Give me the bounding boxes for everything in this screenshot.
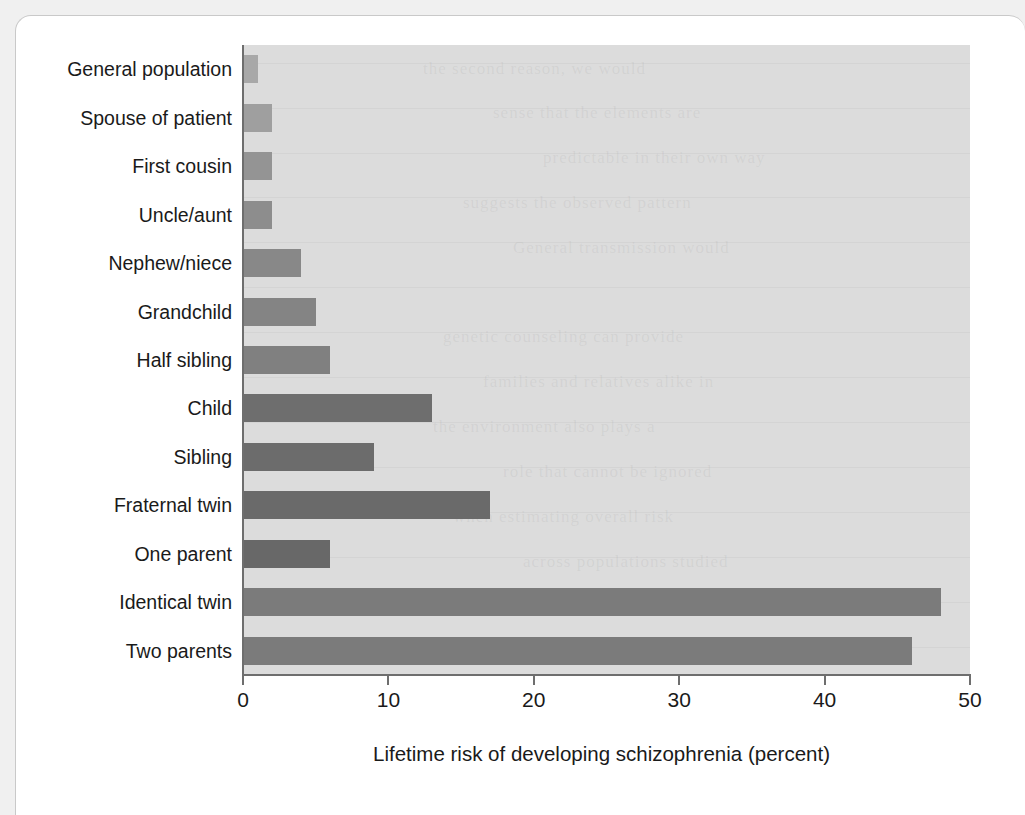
category-label: Half sibling <box>0 346 232 374</box>
category-label: Fraternal twin <box>0 491 232 519</box>
x-tick-label: 0 <box>213 688 273 712</box>
x-tick-label: 50 <box>940 688 1000 712</box>
bar <box>243 298 316 326</box>
bar <box>243 346 330 374</box>
category-label: One parent <box>0 540 232 568</box>
x-tick-label: 20 <box>504 688 564 712</box>
x-axis-line <box>242 674 971 676</box>
category-label: Two parents <box>0 637 232 665</box>
x-tick <box>533 676 535 685</box>
bar <box>243 394 432 422</box>
category-label: First cousin <box>0 152 232 180</box>
bar <box>243 152 272 180</box>
bar <box>243 637 912 665</box>
category-label: Identical twin <box>0 588 232 616</box>
bar <box>243 540 330 568</box>
category-label: Nephew/niece <box>0 249 232 277</box>
category-label: Uncle/aunt <box>0 201 232 229</box>
bar <box>243 249 301 277</box>
x-axis-title: Lifetime risk of developing schizophreni… <box>0 742 1003 766</box>
bar <box>243 491 490 519</box>
category-label: Grandchild <box>0 298 232 326</box>
bar <box>243 201 272 229</box>
x-tick-label: 10 <box>358 688 418 712</box>
bar <box>243 55 258 83</box>
y-axis-line <box>242 45 244 676</box>
plot-area: the second reason, we would sense that t… <box>243 45 970 675</box>
category-label: General population <box>0 55 232 83</box>
x-axis-title-text: Lifetime risk of developing schizophreni… <box>373 742 830 765</box>
x-tick <box>969 676 971 685</box>
x-tick <box>824 676 826 685</box>
bar <box>243 443 374 471</box>
x-tick <box>242 676 244 685</box>
category-label: Child <box>0 394 232 422</box>
x-tick-label: 30 <box>649 688 709 712</box>
x-tick <box>678 676 680 685</box>
x-tick <box>387 676 389 685</box>
category-label: Sibling <box>0 443 232 471</box>
bar <box>243 588 941 616</box>
x-tick-label: 40 <box>795 688 855 712</box>
bar <box>243 104 272 132</box>
category-label: Spouse of patient <box>0 104 232 132</box>
